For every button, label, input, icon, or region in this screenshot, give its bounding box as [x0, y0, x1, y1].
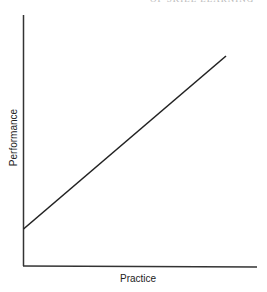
- x-axis: [23, 266, 257, 267]
- data-line: [24, 56, 227, 229]
- y-axis-label: Performance: [8, 103, 19, 173]
- line-chart: [0, 0, 267, 292]
- x-axis-label: Practice: [120, 273, 156, 284]
